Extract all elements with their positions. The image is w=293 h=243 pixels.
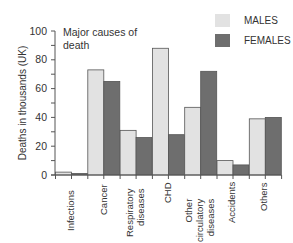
legend: MALES FEMALES xyxy=(215,10,291,50)
bar-males xyxy=(120,130,136,175)
y-tick-label: 0 xyxy=(41,169,47,181)
bar-males xyxy=(185,107,201,175)
y-tick-label: 80 xyxy=(35,53,47,65)
bar-females xyxy=(168,135,184,175)
bar-females xyxy=(201,71,217,175)
bar-males xyxy=(217,161,233,175)
bar-males xyxy=(152,48,168,175)
x-label-accidents: Accidents xyxy=(226,182,237,223)
legend-label-females: FEMALES xyxy=(244,35,291,46)
y-tick-label: 100 xyxy=(29,25,47,37)
bar-females xyxy=(265,117,281,175)
females-swatch xyxy=(215,34,230,47)
y-tick-label: 60 xyxy=(35,82,47,94)
legend-item-females: FEMALES xyxy=(215,30,291,50)
x-label-respiratory: Respiratory diseases xyxy=(124,188,146,237)
bar-females xyxy=(104,81,120,175)
bar-chart: 020406080100 Deaths in thousands (UK) Ma… xyxy=(0,0,293,243)
y-axis-label: Deaths in thousands (UK) xyxy=(17,46,28,161)
y-tick-label: 20 xyxy=(35,140,47,152)
chart-title-line1: Major causes of xyxy=(63,26,173,39)
x-label-cancer: Cancer xyxy=(98,184,109,215)
x-label-chd: CHD xyxy=(162,182,173,203)
x-label-infections: Infections xyxy=(65,190,76,231)
x-label-others: Others xyxy=(258,182,269,211)
chart-title-line2: death xyxy=(63,39,173,52)
bar-males xyxy=(249,119,265,175)
y-tick-label: 40 xyxy=(35,111,47,123)
chart-title: Major causes of death xyxy=(63,26,173,52)
males-swatch xyxy=(215,14,230,27)
legend-label-males: MALES xyxy=(244,15,278,26)
bar-males xyxy=(88,70,104,175)
bar-females xyxy=(233,165,249,175)
x-label-other-circulatory: Other circulatory diseases xyxy=(183,199,216,242)
legend-item-males: MALES xyxy=(215,10,291,30)
bar-females xyxy=(136,138,152,175)
